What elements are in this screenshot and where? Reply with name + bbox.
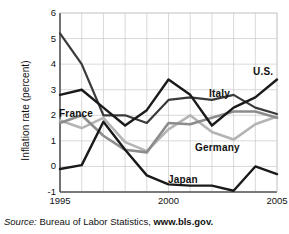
source-prefix: Source: xyxy=(4,216,37,227)
source-body: Bureau of Labor Statistics, xyxy=(39,216,150,227)
inflation-rate-chart-figure: Inflation rate (percent) 6543210-1 19952… xyxy=(0,0,289,234)
series-label-japan: Japan xyxy=(168,174,198,185)
source-note: Source: Bureau of Labor Statistics, www.… xyxy=(4,216,213,227)
source-url: www.bls.gov. xyxy=(153,216,213,227)
series-label-germany: Germany xyxy=(195,142,240,153)
series-label-france: France xyxy=(59,108,93,119)
series-label-italy: Italy xyxy=(209,88,230,99)
series-label-u-s: U.S. xyxy=(253,66,273,77)
plot-area xyxy=(0,0,289,234)
